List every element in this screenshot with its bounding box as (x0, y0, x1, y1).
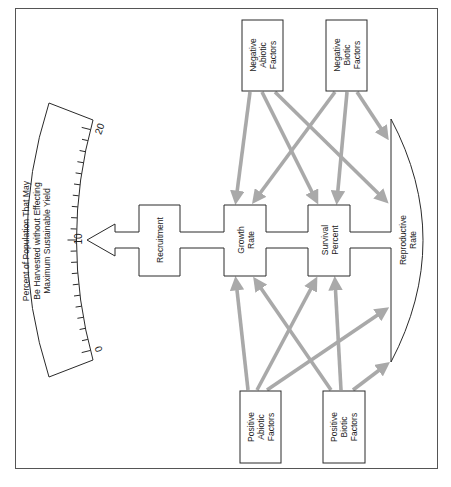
label-reproductive-rate: Reproductive Rate (398, 200, 418, 280)
label-survival-percent-line-2: Percent (330, 205, 340, 276)
arrow-pos-biotic-to-survival (335, 281, 341, 390)
scale-tick (73, 284, 79, 285)
label-negative-abiotic: Negative Abiotic Factors (248, 20, 278, 91)
label-negative-abiotic-line-3: Factors (268, 20, 278, 91)
label-negative-biotic: Negative Biotic Factors (332, 20, 362, 91)
label-negative-biotic-line-1: Negative (332, 20, 342, 91)
label-negative-biotic-line-2: Biotic (342, 20, 352, 91)
label-positive-abiotic-line-1: Positive (246, 392, 256, 463)
scale-tick (72, 273, 78, 274)
label-positive-biotic-line-2: Biotic (339, 392, 349, 463)
label-recruitment: Recruitment (155, 205, 165, 276)
label-reproductive-rate-line-1: Reproductive (398, 200, 408, 280)
arrow-pos-abiotic-to-growth (236, 281, 248, 390)
scale-label-line-1: Percent of Population That May (21, 156, 32, 326)
label-negative-biotic-line-3: Factors (352, 20, 362, 91)
arrow-neg-biotic-to-growth (255, 92, 335, 200)
label-growth-rate-line-2: Rate (246, 205, 256, 276)
arrow-neg-biotic-to-survival (337, 92, 347, 200)
scale-tick-10: 10 (74, 232, 84, 246)
label-survival-percent-line-1: Survival (320, 205, 330, 276)
label-positive-abiotic: Positive Abiotic Factors (246, 392, 276, 463)
negative-factor-arrows (236, 92, 386, 200)
scale-label-line-2: Be Harvested without Effecting (32, 156, 43, 326)
scale-label: Percent of Population That May Be Harves… (21, 156, 53, 326)
label-positive-biotic-line-3: Factors (349, 392, 359, 463)
scale-label-line-3: Maximum Sustainable Yield (42, 156, 53, 326)
label-positive-biotic-line-1: Positive (329, 392, 339, 463)
arrow-neg-biotic-to-reproductive (357, 92, 386, 136)
positive-factor-arrows (236, 281, 386, 390)
diagram-canvas (0, 0, 451, 487)
arrow-pos-biotic-to-reproductive (353, 365, 386, 390)
label-positive-abiotic-line-3: Factors (266, 392, 276, 463)
scale-tick (73, 195, 79, 196)
label-growth-rate-line-1: Growth (236, 205, 246, 276)
arrow-neg-abiotic-to-growth (236, 92, 250, 200)
label-positive-biotic: Positive Biotic Factors (329, 392, 359, 463)
label-negative-abiotic-line-2: Abiotic (258, 20, 268, 91)
label-positive-abiotic-line-2: Abiotic (256, 392, 266, 463)
scale-tick (72, 206, 78, 207)
label-survival-percent: Survival Percent (320, 205, 340, 276)
label-growth-rate: Growth Rate (236, 205, 256, 276)
label-negative-abiotic-line-1: Negative (248, 20, 258, 91)
label-reproductive-rate-line-2: Rate (408, 200, 418, 280)
